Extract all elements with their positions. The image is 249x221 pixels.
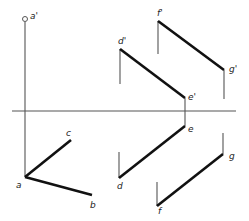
line-fg bbox=[157, 154, 223, 206]
a-prime-point-marker bbox=[23, 17, 28, 22]
line-d-prime-e-prime bbox=[120, 49, 185, 98]
point-label-g: g bbox=[229, 151, 235, 161]
point-label-b: b bbox=[90, 200, 96, 210]
line-f-prime-g-prime bbox=[158, 21, 224, 70]
point-label-d: d bbox=[117, 181, 123, 191]
point-label-f: f bbox=[158, 206, 163, 216]
line-de bbox=[119, 126, 185, 178]
point-label-a: a bbox=[16, 180, 22, 190]
point-label-f-prime: f' bbox=[157, 8, 163, 18]
object-lines bbox=[25, 21, 224, 206]
point-label-e: e bbox=[188, 124, 194, 134]
line-ab bbox=[25, 177, 92, 195]
point-label-g-prime: g' bbox=[229, 64, 237, 74]
point-label-e-prime: e' bbox=[188, 92, 196, 102]
point-label-c: c bbox=[66, 128, 71, 138]
point-label-d-prime: d' bbox=[118, 36, 126, 46]
point-label-a-prime: a' bbox=[30, 11, 38, 21]
projection-diagram: a'abcd'e'f'g'defg bbox=[0, 0, 249, 221]
line-ac bbox=[25, 140, 71, 177]
